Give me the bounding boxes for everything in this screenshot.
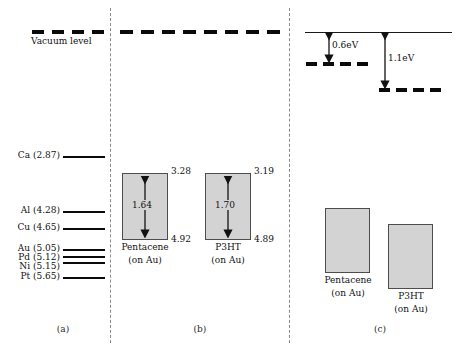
offset-label-p3ht-c: 1.1eV [388, 53, 414, 63]
vacuum-level-dash [204, 30, 217, 34]
level-dash-p3ht-c [396, 88, 407, 92]
vacuum-level-dash [246, 30, 259, 34]
level-label-ca: Ca (2.87) [0, 150, 60, 160]
level-dash-pentacene-c [306, 62, 317, 66]
level-dash-pentacene-c [340, 62, 351, 66]
vacuum-level-dash [92, 30, 104, 34]
offset-label-pentacene-c: 0.6eV [332, 40, 358, 50]
level-line-cu [63, 228, 105, 230]
material-name-pentacene-c: Pentacene [308, 274, 388, 286]
level-line-au [63, 249, 105, 251]
energy-level-figure: Vacuum level Ca (2.87) Al (4.28) Cu (4.6… [0, 0, 460, 351]
vacuum-level-dash [225, 30, 238, 34]
vacuum-level-dash [141, 30, 154, 34]
gap-box-pentacene-c [325, 208, 370, 273]
material-substrate-p3ht-b: (on Au) [188, 254, 268, 266]
panel-caption-c: (c) [360, 324, 400, 334]
gap-box-p3ht-c [388, 224, 433, 289]
gap-value-pentacene-b: 1.64 [131, 200, 153, 210]
lumo-value-pentacene-b: 3.28 [171, 166, 191, 176]
level-label-cu: Cu (4.65) [0, 222, 60, 232]
level-line-pt [63, 277, 105, 279]
level-line-ca [63, 156, 105, 158]
material-name-p3ht-c: P3HT [371, 290, 451, 302]
level-dash-pentacene-c [357, 62, 368, 66]
level-label-ni: Ni (5.15) [0, 261, 60, 271]
vacuum-level-dash [267, 30, 280, 34]
panel-caption-b: (b) [180, 324, 220, 334]
level-label-pt: Pt (5.65) [0, 271, 60, 281]
level-dash-p3ht-c [413, 88, 424, 92]
vacuum-level-dash [72, 30, 84, 34]
vacuum-level-dash [183, 30, 196, 34]
vacuum-level-label: Vacuum level [31, 36, 92, 46]
panel-caption-a: (a) [43, 324, 83, 334]
vacuum-level-dash [162, 30, 175, 34]
vacuum-level-dash [120, 30, 133, 34]
vacuum-level-dash [32, 30, 44, 34]
level-label-al: Al (4.28) [0, 205, 60, 215]
panel-divider-b-c [289, 8, 290, 343]
lumo-value-p3ht-b: 3.19 [254, 166, 274, 176]
gap-value-p3ht-b: 1.70 [214, 200, 236, 210]
material-substrate-p3ht-c: (on Au) [371, 303, 451, 315]
level-line-ni [63, 262, 105, 264]
vacuum-level-dash [52, 30, 64, 34]
material-name-pentacene-b: Pentacene [105, 241, 185, 253]
level-dash-p3ht-c [430, 88, 441, 92]
level-line-pd [63, 256, 105, 258]
level-line-al [63, 211, 105, 213]
material-substrate-pentacene-b: (on Au) [105, 254, 185, 266]
material-name-p3ht-b: P3HT [188, 241, 268, 253]
panel-divider-a-b [110, 8, 111, 343]
